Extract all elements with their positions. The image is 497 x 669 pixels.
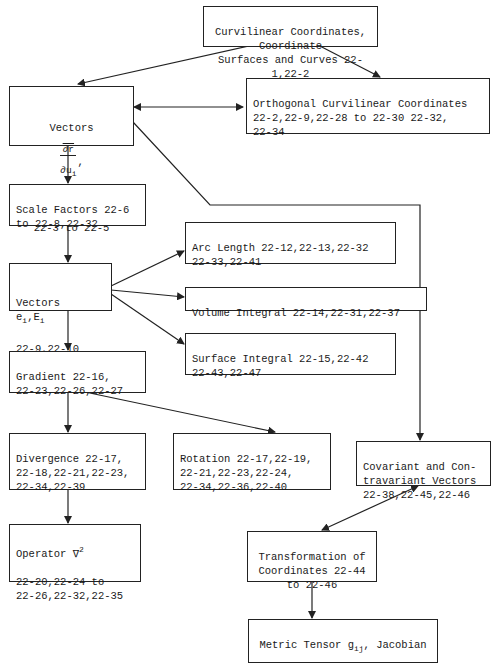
subscript: i	[22, 316, 27, 325]
node-text: Orthogonal Curvilinear Coordinates 22-2,…	[253, 98, 467, 138]
vectors-label: Vectors	[16, 297, 60, 309]
node-text: Volume Integral 22-14,22-31,22-37	[192, 307, 400, 319]
metric-subscript: ij	[354, 644, 364, 653]
fraction-subscript: i	[72, 169, 77, 178]
node-vectors-e: Vectors ei,Ei 22-9,22-10	[9, 263, 112, 311]
node-arc-length: Arc Length 22-12,22-13,22-32 22-33,22-41	[185, 222, 396, 264]
node-rotation: Rotation 22-17,22-19, 22-21,22-23,22-24,…	[173, 433, 331, 490]
metric-header: Metric Tensor gij, Jacobian	[255, 638, 431, 656]
partial-derivative-fraction: ∂r ∂ui	[60, 135, 76, 189]
node-vectors-header: Vectors ei,Ei	[16, 282, 105, 328]
operator-superscript: 2	[79, 545, 84, 554]
node-covariant-contravariant: Covariant and Con- travariant Vectors 22…	[356, 441, 491, 486]
node-volume-integral: Volume Integral 22-14,22-31,22-37	[185, 287, 427, 311]
node-scale-factors: Scale Factors 22-6 to 22-8,22-32	[9, 184, 146, 226]
operator-header: Operator ∇2	[16, 543, 134, 561]
fraction-denominator: ∂u	[60, 165, 71, 176]
node-text: Divergence 22-17, 22-18,22-21,22-23, 22-…	[16, 453, 129, 493]
fraction-numerator: ∂r	[63, 144, 74, 155]
node-text: Covariant and Con- travariant Vectors 22…	[363, 461, 476, 501]
node-divergence: Divergence 22-17, 22-18,22-21,22-23, 22-…	[9, 433, 146, 490]
node-transformation: Transformation of Coordinates 22-44 to 2…	[247, 531, 377, 582]
node-surface-integral: Surface Integral 22-15,22-42 22-43,22-47	[185, 333, 396, 375]
operator-label: Operator ∇	[16, 548, 79, 560]
node-curvilinear-coordinates: Curvilinear Coordinates, Coordinate Surf…	[203, 6, 378, 47]
node-vectors-partial-r: Vectors ∂r ∂ui , ∇ui 22-3 to 22-5	[9, 86, 134, 146]
metric-label: Metric Tensor g	[259, 639, 354, 651]
vectors-label: Vectors	[49, 122, 93, 134]
node-metric-tensor: Metric Tensor gij, Jacobian 22-48 to 22-…	[248, 619, 438, 663]
subscript: i	[40, 316, 45, 325]
node-orthogonal-curvilinear: Orthogonal Curvilinear Coordinates 22-2,…	[246, 78, 490, 134]
node-gradient: Gradient 22-16, 22-23,22-26,22-27	[9, 351, 146, 393]
node-refs: 22-20,22-24 to 22-26,22-32,22-35	[16, 575, 134, 603]
node-text: Rotation 22-17,22-19, 22-21,22-23,22-24,…	[180, 453, 312, 493]
node-operator-laplacian: Operator ∇2 22-20,22-24 to 22-26,22-32,2…	[9, 524, 141, 582]
metric-label-2: , Jacobian	[364, 639, 427, 651]
node-text: Gradient 22-16, 22-23,22-26,22-27	[16, 371, 123, 397]
